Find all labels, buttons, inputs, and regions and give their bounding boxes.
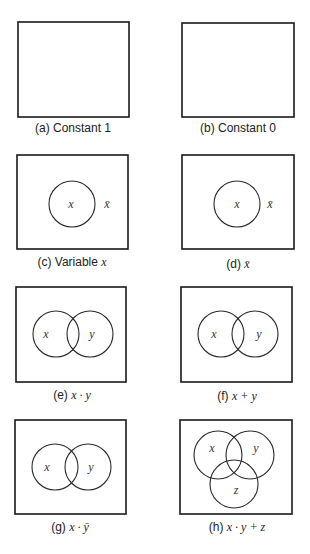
panel-caption: (d) x̄ (226, 257, 250, 271)
panel-a-constant-1: (a) Constant 1 (18, 22, 129, 135)
universe-box (18, 22, 129, 117)
set-x-circle (33, 311, 79, 357)
panel-f-x-or-y: x y (f) x + y (181, 287, 292, 403)
venn-diagram-figure: (a) Constant 1 (b) Constant 0 x x̄ (c) V… (0, 0, 310, 554)
panel-d-x-complement: x x̄ (d) x̄ (182, 155, 294, 271)
panel-c-variable-x: x x̄ (c) Variable x (17, 155, 128, 269)
set-x-circle (194, 431, 242, 479)
region-label-x: x (210, 327, 217, 341)
panel-caption: (f) x + y (217, 389, 257, 403)
region-label-y: y (88, 327, 95, 341)
region-label-y: y (87, 460, 94, 474)
region-label-y: y (252, 441, 259, 455)
region-label-x: x (43, 460, 50, 474)
panel-caption: (b) Constant 0 (200, 121, 276, 135)
panel-caption: (c) Variable x (37, 255, 107, 269)
region-label-x: x (42, 327, 49, 341)
panel-g-x-and-not-y: x y (g) x · ȳ (15, 420, 126, 534)
universe-box (182, 23, 294, 117)
panel-b-constant-0: (b) Constant 0 (182, 23, 294, 135)
panel-h-xy-or-z: x y z (h) x · y + z (180, 420, 292, 534)
panel-caption: (e) x · y (53, 388, 91, 402)
panel-e-x-and-y: x y (e) x · y (16, 287, 126, 402)
region-label-x-complement: x̄ (266, 197, 273, 211)
region-label-x-complement: x̄ (103, 197, 110, 211)
set-x-circle (198, 311, 244, 357)
set-y-circle (226, 431, 274, 479)
region-label-y: y (255, 327, 262, 341)
set-y-circle (232, 311, 278, 357)
region-label-z: z (233, 483, 239, 497)
region-label-x: x (208, 441, 215, 455)
region-label-x: x (67, 197, 74, 211)
panel-caption: (h) x · y + z (209, 520, 266, 534)
panel-caption: (a) Constant 1 (35, 121, 111, 135)
panel-caption: (g) x · ȳ (51, 520, 89, 534)
region-label-x: x (233, 197, 240, 211)
